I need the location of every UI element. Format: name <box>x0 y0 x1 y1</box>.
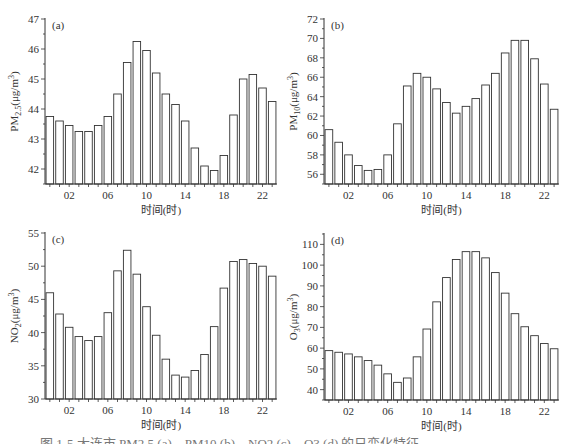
bar-hour-21 <box>531 59 539 184</box>
x-tick-label: 02 <box>64 404 75 416</box>
bar-hour-23 <box>550 109 558 184</box>
x-tick-label: 02 <box>64 189 75 201</box>
y-tick-label: 110 <box>302 238 319 250</box>
x-tick-label: 06 <box>102 189 114 201</box>
bar-hour-11 <box>433 302 441 400</box>
panel-label: (d) <box>331 234 344 247</box>
y-axis-label: NO2(μg/m3) <box>7 289 23 344</box>
y-tick-label: 50 <box>28 260 40 272</box>
y-tick-label: 46 <box>28 43 40 55</box>
y-tick-label: 66 <box>307 71 319 83</box>
bar-hour-14 <box>462 252 470 400</box>
bar-hour-10 <box>423 329 431 400</box>
bar-hour-22 <box>540 344 548 400</box>
bar-hour-14 <box>462 106 470 184</box>
bar-hour-12 <box>162 359 170 399</box>
y-tick-label: 47 <box>28 13 40 25</box>
bar-hour-16 <box>482 258 490 400</box>
x-tick-label: 22 <box>257 189 268 201</box>
bar-hour-06 <box>104 313 112 399</box>
chart-panel-b: 565860626466687072020610141822时间(时)PM10(… <box>281 0 562 222</box>
y-tick-label: 64 <box>307 91 319 103</box>
bar-hour-09 <box>133 274 141 399</box>
x-tick-label: 18 <box>500 405 512 417</box>
bar-hour-15 <box>191 370 199 399</box>
bar-hour-01 <box>335 352 343 400</box>
pm25-bar-chart: 424344454647020610141822时间(时)PM2.5(μg/m3… <box>0 0 281 222</box>
x-tick-label: 22 <box>539 189 550 201</box>
bar-hour-07 <box>394 124 402 184</box>
bar-hour-17 <box>210 171 218 185</box>
y-tick-label: 62 <box>307 110 318 122</box>
y-tick-label: 68 <box>307 52 319 64</box>
bars <box>325 40 558 184</box>
bar-hour-12 <box>443 278 451 400</box>
pm10-bar-chart: 565860626466687072020610141822时间(时)PM10(… <box>281 0 562 222</box>
x-tick-label: 10 <box>141 189 153 201</box>
bar-hour-02 <box>345 354 353 400</box>
bar-hour-18 <box>501 293 509 400</box>
x-tick-label: 06 <box>382 189 394 201</box>
bar-hour-22 <box>259 266 267 399</box>
bar-hour-15 <box>191 148 199 184</box>
x-tick-label: 18 <box>218 404 230 416</box>
bar-hour-15 <box>472 252 480 400</box>
y-tick-label: 56 <box>307 168 319 180</box>
bar-hour-03 <box>354 357 362 400</box>
bar-hour-03 <box>354 166 362 184</box>
bar-hour-23 <box>268 102 276 185</box>
bar-hour-03 <box>75 132 83 185</box>
bar-hour-21 <box>531 336 539 400</box>
x-tick-label: 14 <box>180 404 192 416</box>
bar-hour-12 <box>162 94 170 184</box>
bar-hour-23 <box>550 349 558 400</box>
y-tick-label: 80 <box>307 301 319 313</box>
y-tick-label: 72 <box>307 13 318 25</box>
x-tick-label: 22 <box>539 405 550 417</box>
figure-caption: 图 1-5 大连市 PM2.5 (a)、PM10 (b)、NO2 (c)、O3 … <box>40 436 540 444</box>
bar-hour-17 <box>492 73 500 184</box>
x-tick-label: 06 <box>102 404 114 416</box>
y-tick-label: 60 <box>307 129 319 141</box>
x-axis-label: 时间(时) <box>421 420 462 433</box>
o3-bar-chart: 405060708090100110020610141822时间(时)O3(μg… <box>281 222 562 444</box>
bar-hour-13 <box>172 375 180 399</box>
bar-hour-20 <box>521 40 529 184</box>
bar-hour-18 <box>501 53 509 184</box>
bar-hour-13 <box>452 113 460 184</box>
y-tick-label: 30 <box>28 393 40 405</box>
bar-hour-19 <box>230 262 238 399</box>
x-axis-label: 时间(时) <box>141 419 182 432</box>
x-axis-label: 时间(时) <box>141 204 182 217</box>
bar-hour-03 <box>75 337 83 399</box>
chart-panel-d: 405060708090100110020610141822时间(时)O3(μg… <box>281 222 562 444</box>
bar-hour-19 <box>511 40 519 184</box>
bar-hour-18 <box>220 288 228 399</box>
bar-hour-06 <box>384 374 392 400</box>
bar-hour-06 <box>104 117 112 185</box>
y-tick-label: 100 <box>302 259 319 271</box>
bar-hour-02 <box>65 327 73 399</box>
y-tick-label: 70 <box>307 321 319 333</box>
x-axis-label: 时间(时) <box>421 204 462 217</box>
x-tick-label: 18 <box>500 189 512 201</box>
x-tick-label: 06 <box>382 405 394 417</box>
bar-hour-00 <box>46 117 54 185</box>
bar-hour-10 <box>423 77 431 184</box>
bars <box>46 42 276 185</box>
bar-hour-04 <box>364 170 372 184</box>
bar-hour-07 <box>114 271 122 399</box>
bar-hour-16 <box>201 166 209 184</box>
y-axis-label: PM2.5(μg/m3) <box>7 71 23 132</box>
bar-hour-05 <box>94 126 102 185</box>
bar-hour-02 <box>345 155 353 184</box>
bar-hour-11 <box>152 73 160 184</box>
bar-hour-20 <box>521 327 529 400</box>
y-tick-label: 42 <box>28 163 39 175</box>
bar-hour-13 <box>172 105 180 185</box>
bar-hour-01 <box>56 314 64 399</box>
bar-hour-00 <box>325 351 333 400</box>
chart-panel-a: 424344454647020610141822时间(时)PM2.5(μg/m3… <box>0 0 281 222</box>
bar-hour-04 <box>85 132 93 185</box>
bar-hour-19 <box>230 115 238 184</box>
